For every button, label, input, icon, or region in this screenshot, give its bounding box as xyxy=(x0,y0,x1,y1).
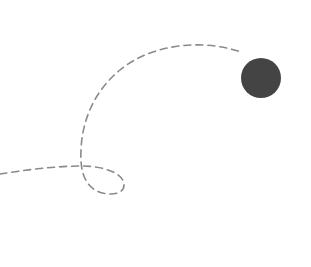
ball-icon xyxy=(241,58,281,98)
trajectory-illustration xyxy=(0,0,311,267)
dashed-trajectory-path xyxy=(0,45,241,194)
